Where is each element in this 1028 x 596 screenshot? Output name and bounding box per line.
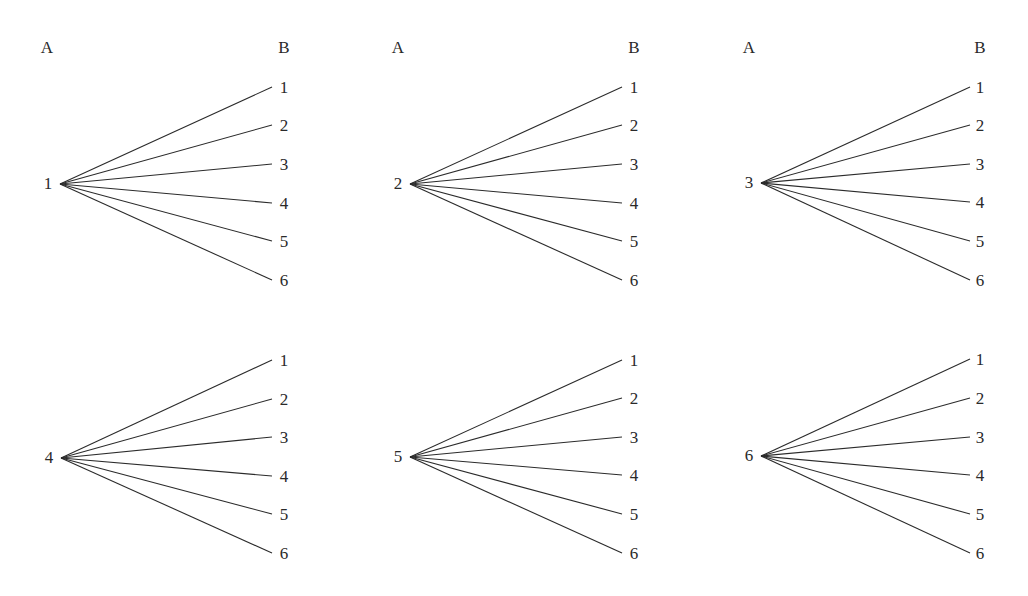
branch-line — [60, 87, 272, 184]
leaf-label: 3 — [280, 156, 289, 174]
leaf-label: 5 — [630, 233, 639, 251]
column-header-a: A — [41, 39, 53, 57]
root-label: 1 — [44, 175, 53, 193]
leaf-label: 1 — [976, 351, 985, 369]
leaf-label: 5 — [280, 233, 289, 251]
tree-diagram-canvas: 1234561AB1234562AB1234563AB1234564123456… — [0, 0, 1028, 596]
branch-line — [761, 437, 970, 456]
column-header-b: B — [628, 39, 639, 57]
leaf-label: 1 — [280, 352, 289, 370]
root-label: 2 — [394, 175, 403, 193]
branch-line — [761, 456, 970, 553]
leaf-label: 1 — [280, 79, 289, 97]
branch-line — [761, 183, 970, 280]
branch-line — [761, 125, 970, 183]
branch-line — [61, 360, 272, 458]
root-label: 5 — [394, 448, 403, 466]
leaf-label: 1 — [630, 79, 639, 97]
column-header-b: B — [974, 39, 985, 57]
leaf-label: 4 — [976, 467, 985, 485]
leaf-label: 4 — [630, 195, 639, 213]
tree-4 — [61, 360, 272, 553]
leaf-label: 2 — [280, 391, 289, 409]
leaf-label: 3 — [976, 429, 985, 447]
leaf-label: 6 — [630, 545, 639, 563]
leaf-label: 2 — [630, 117, 639, 135]
branch-line — [761, 164, 970, 183]
column-header-a: A — [392, 39, 404, 57]
leaf-label: 2 — [630, 390, 639, 408]
tree-6 — [761, 359, 970, 553]
branch-line — [761, 183, 970, 202]
leaf-label: 4 — [976, 194, 985, 212]
branch-line — [61, 458, 272, 476]
branch-line — [761, 398, 970, 456]
leaf-label: 4 — [280, 195, 289, 213]
branch-line — [61, 437, 272, 458]
branch-line — [761, 359, 970, 456]
root-label: 6 — [745, 447, 754, 465]
tree-branches — [0, 0, 1028, 596]
branch-line — [60, 125, 272, 184]
leaf-label: 1 — [630, 352, 639, 370]
leaf-label: 3 — [976, 156, 985, 174]
leaf-label: 5 — [976, 233, 985, 251]
branch-line — [60, 164, 272, 184]
branch-line — [410, 184, 622, 203]
leaf-label: 4 — [280, 468, 289, 486]
leaf-label: 5 — [630, 506, 639, 524]
branch-line — [61, 399, 272, 458]
branch-line — [761, 456, 970, 514]
root-label: 3 — [745, 174, 754, 192]
leaf-label: 6 — [976, 545, 985, 563]
branch-line — [761, 456, 970, 475]
leaf-label: 6 — [976, 272, 985, 290]
leaf-label: 3 — [280, 429, 289, 447]
branch-line — [761, 183, 970, 241]
leaf-label: 6 — [280, 545, 289, 563]
branch-line — [410, 437, 622, 457]
leaf-label: 2 — [976, 390, 985, 408]
tree-3 — [761, 87, 970, 280]
leaf-label: 5 — [976, 506, 985, 524]
leaf-label: 3 — [630, 156, 639, 174]
leaf-label: 1 — [976, 79, 985, 97]
branch-line — [410, 87, 622, 184]
tree-2 — [410, 87, 622, 280]
leaf-label: 6 — [280, 272, 289, 290]
leaf-label: 4 — [630, 467, 639, 485]
branch-line — [410, 164, 622, 184]
leaf-label: 3 — [630, 429, 639, 447]
leaf-label: 6 — [630, 272, 639, 290]
column-header-b: B — [278, 39, 289, 57]
branch-line — [761, 87, 970, 183]
leaf-label: 5 — [280, 506, 289, 524]
leaf-label: 2 — [280, 117, 289, 135]
tree-5 — [410, 360, 622, 553]
branch-line — [410, 360, 622, 457]
branch-line — [410, 398, 622, 457]
branch-line — [60, 184, 272, 203]
column-header-a: A — [743, 39, 755, 57]
tree-1 — [60, 87, 272, 280]
branch-line — [410, 125, 622, 184]
leaf-label: 2 — [976, 117, 985, 135]
root-label: 4 — [45, 449, 54, 467]
